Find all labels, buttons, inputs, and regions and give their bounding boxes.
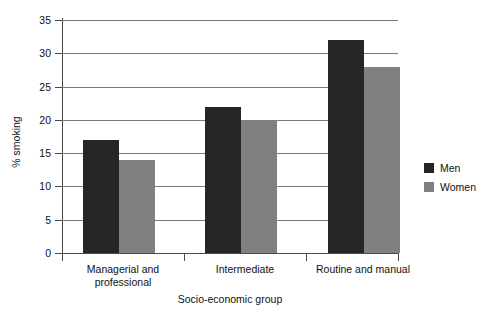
x-category-label-line: Intermediate	[183, 263, 307, 276]
legend-item-women: Women	[424, 177, 476, 196]
x-tick	[306, 253, 307, 261]
x-category-label-intermediate: Intermediate	[183, 263, 307, 276]
plot-area	[62, 20, 398, 253]
y-axis-tick-labels: 35 30 25 20 15 10 5 0	[0, 20, 51, 253]
y-tick-label: 10	[39, 180, 51, 192]
bar-men-managerial-and-professional	[83, 140, 119, 253]
x-category-label-line: professional	[61, 276, 185, 289]
y-tick	[55, 186, 62, 187]
x-tick	[398, 253, 399, 261]
bar-women-managerial-and-professional	[119, 160, 155, 253]
legend: Men Women	[424, 158, 476, 196]
legend-label-women: Women	[440, 181, 476, 193]
y-tick-label: 20	[39, 114, 51, 126]
y-axis-title: % smoking	[10, 82, 22, 202]
bar-women-intermediate	[241, 120, 277, 253]
y-tick	[55, 120, 62, 121]
x-category-label-managerial-and-professional: Managerial and professional	[61, 263, 185, 288]
y-tick-label: 15	[39, 147, 51, 159]
bar-chart: 35 30 25 20 15 10 5 0 % smoking	[0, 0, 500, 318]
x-category-label-line: Managerial and	[61, 263, 185, 276]
y-tick-label: 0	[45, 247, 51, 259]
legend-swatch-women-icon	[424, 182, 434, 192]
y-tick-label: 5	[45, 214, 51, 226]
bar-men-routine-and-manual	[328, 40, 364, 253]
y-tick	[55, 253, 62, 254]
y-tick-label: 25	[39, 81, 51, 93]
y-tick	[55, 87, 62, 88]
x-category-label-routine-and-manual: Routine and manual	[297, 263, 429, 276]
y-tick-label: 35	[39, 14, 51, 26]
bar-men-intermediate	[205, 107, 241, 253]
legend-item-men: Men	[424, 158, 476, 177]
y-tick	[55, 153, 62, 154]
legend-label-men: Men	[440, 162, 460, 174]
x-axis-title: Socio-economic group	[0, 293, 460, 305]
x-category-label-line: Routine and manual	[297, 263, 429, 276]
y-tick	[55, 20, 62, 21]
bar-women-routine-and-manual	[364, 67, 400, 253]
legend-swatch-men-icon	[424, 163, 434, 173]
x-tick	[184, 253, 185, 261]
x-axis-line	[62, 253, 399, 254]
y-tick-label: 30	[39, 47, 51, 59]
y-tick	[55, 53, 62, 54]
x-tick	[62, 253, 63, 261]
y-tick	[55, 220, 62, 221]
gridline-35	[62, 20, 398, 21]
